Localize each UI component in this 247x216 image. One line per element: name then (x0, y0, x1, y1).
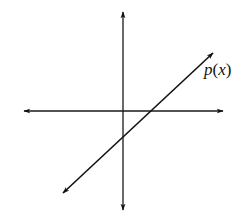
function-line-p (63, 53, 213, 193)
variable-name: x (218, 60, 226, 79)
function-name: p (204, 60, 213, 79)
function-label: p(x) (204, 61, 231, 78)
close-paren: ) (226, 60, 232, 79)
coordinate-plane (0, 0, 247, 216)
